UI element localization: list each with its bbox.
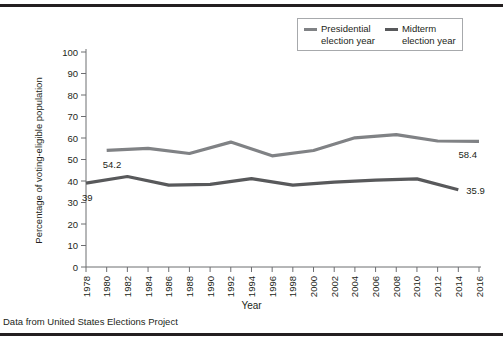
x-tick-label: 2012 bbox=[432, 276, 443, 297]
y-tick-label: 10 bbox=[67, 240, 78, 251]
y-tick-label: 100 bbox=[62, 47, 78, 58]
x-tick-label: 2014 bbox=[453, 276, 464, 297]
bottom-rule bbox=[0, 333, 503, 336]
x-tick-label: 1992 bbox=[225, 276, 236, 297]
line-chart-svg: 0102030405060708090100197819801982198419… bbox=[0, 0, 503, 315]
y-tick-label: 90 bbox=[67, 68, 78, 79]
y-tick-label: 60 bbox=[67, 133, 78, 144]
x-tick-label: 2006 bbox=[370, 276, 381, 297]
x-axis-title: Year bbox=[0, 300, 503, 311]
x-tick-label: 1994 bbox=[246, 276, 257, 297]
y-tick-label: 80 bbox=[67, 90, 78, 101]
x-tick-label: 2002 bbox=[329, 276, 340, 297]
x-tick-label: 2004 bbox=[349, 276, 360, 297]
x-tick-label: 1988 bbox=[184, 276, 195, 297]
x-tick-label: 1978 bbox=[81, 276, 92, 297]
x-tick-label: 1984 bbox=[143, 276, 154, 297]
x-tick-label: 2008 bbox=[391, 276, 402, 297]
label-midterm-start: 39 bbox=[82, 192, 93, 203]
series-line-presidential bbox=[107, 135, 479, 156]
x-tick-label: 1982 bbox=[122, 276, 133, 297]
x-tick-label: 1998 bbox=[287, 276, 298, 297]
y-tick-label: 20 bbox=[67, 219, 78, 230]
x-tick-label: 2000 bbox=[308, 276, 319, 297]
x-tick-label: 1986 bbox=[163, 276, 174, 297]
label-presidential-start: 54.2 bbox=[103, 159, 122, 170]
y-tick-label: 40 bbox=[67, 176, 78, 187]
chart-plot-area: 0102030405060708090100197819801982198419… bbox=[0, 0, 503, 315]
y-tick-label: 30 bbox=[67, 197, 78, 208]
y-tick-label: 50 bbox=[67, 154, 78, 165]
x-tick-label: 1996 bbox=[267, 276, 278, 297]
x-tick-label: 1990 bbox=[205, 276, 216, 297]
y-axis-title: Percentage of voting-eligible population bbox=[33, 61, 44, 261]
series-line-midterm bbox=[86, 176, 458, 189]
y-tick-label: 70 bbox=[67, 111, 78, 122]
x-tick-label: 2016 bbox=[474, 276, 485, 297]
y-tick-label: 0 bbox=[73, 262, 78, 273]
source-note: Data from United States Elections Projec… bbox=[3, 316, 178, 327]
label-presidential-end: 58.4 bbox=[459, 149, 478, 160]
chart-page: Presidential election year Midterm elect… bbox=[0, 0, 503, 349]
x-tick-label: 2010 bbox=[411, 276, 422, 297]
label-midterm-end: 35.9 bbox=[466, 185, 485, 196]
x-tick-label: 1980 bbox=[101, 276, 112, 297]
